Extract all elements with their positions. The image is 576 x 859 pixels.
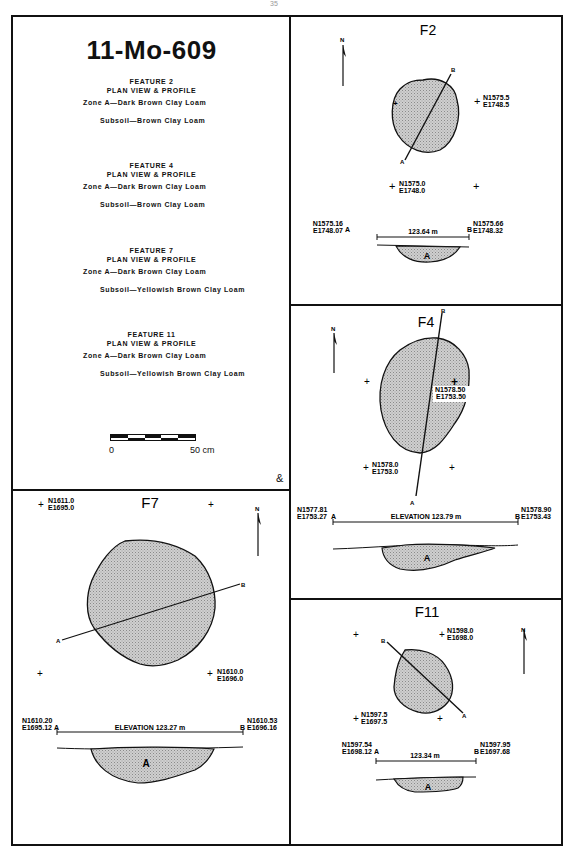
north-arrow-icon: N <box>255 506 261 556</box>
svg-text:E1753.43: E1753.43 <box>521 513 551 520</box>
datum-cross-icon: + <box>353 713 359 724</box>
datum-cross-icon: + <box>207 668 213 679</box>
svg-text:A: A <box>142 758 149 769</box>
svg-text:N1610.20: N1610.20 <box>22 717 52 724</box>
feature-outline <box>394 650 453 714</box>
panel-title: F4 <box>418 314 435 330</box>
datum-label: N1598.0 <box>447 627 474 634</box>
panel-title: F2 <box>420 22 437 38</box>
datum-cross-icon: + <box>437 713 443 724</box>
svg-text:N1577.81: N1577.81 <box>297 506 327 513</box>
svg-text:N1597.54: N1597.54 <box>342 741 372 748</box>
panel-f2: F2 N + B A + N1575.5 E1748.5 + N1575.0 E… <box>313 22 510 262</box>
datum-label: N1610.0 <box>217 668 244 675</box>
svg-text:B: B <box>474 748 479 755</box>
profile-f4: N1577.81 E1753.27 A B N1578.90 E1753.43 … <box>297 506 551 570</box>
svg-text:N1610.53: N1610.53 <box>247 717 277 724</box>
panel-f11: F11 N + + N1598.0 E1698.0 B A + N1597.5 … <box>342 603 527 792</box>
north-arrow-icon: N <box>521 627 527 674</box>
svg-text:B: B <box>467 226 472 233</box>
section-a-label: A <box>462 713 467 719</box>
svg-text:N1597.95: N1597.95 <box>480 741 510 748</box>
section-a-label: A <box>410 500 415 506</box>
svg-text:E1696.16: E1696.16 <box>247 724 277 731</box>
svg-text:A: A <box>425 782 432 792</box>
svg-text:A: A <box>374 748 379 755</box>
datum-cross-icon: + <box>38 499 44 510</box>
datum-label: E1697.5 <box>361 718 387 725</box>
datum-label: N1578.0 <box>372 461 399 468</box>
svg-text:123.34 m: 123.34 m <box>410 752 440 759</box>
svg-text:E1753.27: E1753.27 <box>297 513 327 520</box>
svg-text:E1697.68: E1697.68 <box>480 748 510 755</box>
panel-title: F11 <box>415 603 440 620</box>
svg-text:E1748.32: E1748.32 <box>473 227 503 234</box>
svg-text:ELEVATION 123.79 m: ELEVATION 123.79 m <box>391 513 462 520</box>
datum-label: E1753.0 <box>372 468 398 475</box>
section-b-label: B <box>451 67 456 73</box>
svg-text:A: A <box>331 513 336 520</box>
datum-cross-icon: + <box>449 462 455 473</box>
feature-outline <box>392 79 458 152</box>
datum-cross-icon: + <box>364 376 370 387</box>
section-b-label: B <box>441 308 446 314</box>
datum-cross-icon: + <box>37 668 43 679</box>
datum-label: E1695.0 <box>48 504 74 511</box>
panel-f7: F7 N + N1611.0 E1695.0 + B A + + N1610.0… <box>22 494 277 783</box>
profile-f7: N1610.20 E1695.12 A B N1610.53 E1696.16 … <box>22 717 277 783</box>
svg-text:B: B <box>515 513 520 520</box>
svg-text:N: N <box>331 326 335 332</box>
svg-text:ELEVATION 123.27 m: ELEVATION 123.27 m <box>115 724 186 731</box>
section-b-label: B <box>381 638 386 644</box>
svg-text:N: N <box>340 37 344 43</box>
datum-cross-icon: + <box>208 499 214 510</box>
section-a-label: A <box>56 638 61 644</box>
svg-text:E1698.12: E1698.12 <box>342 748 372 755</box>
profile-f11: N1597.54 E1698.12 A B N1597.95 E1697.68 … <box>342 741 511 792</box>
datum-cross-icon: + <box>353 629 359 640</box>
datum-label: N1611.0 <box>48 497 74 504</box>
north-arrow-icon: N <box>340 37 346 86</box>
north-arrow-icon: N <box>331 326 337 373</box>
svg-text:E1748.07: E1748.07 <box>313 227 343 234</box>
panel-title: F7 <box>141 494 159 511</box>
svg-text:A: A <box>424 251 431 261</box>
datum-label: N1597.5 <box>361 711 388 718</box>
datum-label: N1578.50 <box>435 386 465 393</box>
datum-label: E1748.5 <box>483 101 509 108</box>
datum-cross-icon: + <box>474 95 480 107</box>
svg-text:N: N <box>521 627 525 633</box>
datum-label: E1753.50 <box>436 393 466 400</box>
datum-label: N1575.5 <box>483 94 510 101</box>
datum-label: N1575.0 <box>399 180 426 187</box>
panel-f4: F4 N B A + N1578.50 E1753.50 + + N1578.0… <box>297 308 551 570</box>
svg-text:N1578.90: N1578.90 <box>521 506 551 513</box>
section-b-label: B <box>241 582 246 588</box>
feature-outline <box>87 540 215 666</box>
datum-label: E1696.0 <box>217 675 243 682</box>
svg-text:N: N <box>255 506 259 512</box>
datum-cross-icon: + <box>393 99 398 108</box>
svg-text:A: A <box>345 226 350 233</box>
datum-cross-icon: + <box>439 629 445 640</box>
datum-label: E1698.0 <box>447 634 473 641</box>
svg-text:A: A <box>424 553 431 563</box>
datum-label: E1748.0 <box>399 187 425 194</box>
profile-f2: N1575.16 E1748.07 A B N1575.66 E1748.32 … <box>313 220 504 262</box>
datum-cross-icon: + <box>363 462 369 473</box>
svg-text:N1575.16: N1575.16 <box>313 220 343 227</box>
svg-text:N1575.66: N1575.66 <box>473 220 503 227</box>
svg-text:123.64 m: 123.64 m <box>408 228 438 235</box>
datum-cross-icon: + <box>389 180 395 192</box>
datum-cross-icon: + <box>473 180 479 192</box>
section-a-label: A <box>400 159 405 165</box>
svg-text:E1695.12: E1695.12 <box>22 724 52 731</box>
